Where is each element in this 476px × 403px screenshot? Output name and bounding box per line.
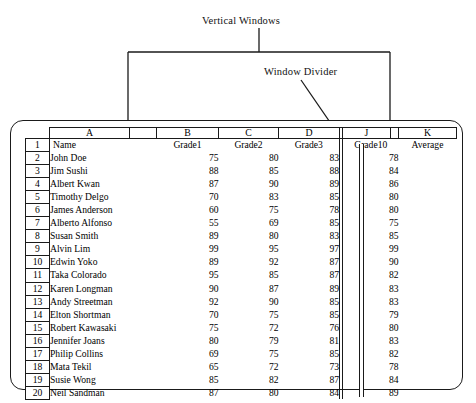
cell-average[interactable] — [399, 217, 457, 230]
row-number[interactable]: 12 — [26, 282, 50, 295]
cell-grade10[interactable]: 84 — [343, 165, 399, 178]
cell-grade1[interactable]: 85 — [157, 373, 219, 386]
cell-name[interactable]: Mata Tekil — [50, 360, 157, 373]
cell-grade10[interactable]: 82 — [343, 347, 399, 360]
row-number[interactable]: 7 — [26, 217, 50, 230]
cell-average[interactable] — [399, 256, 457, 269]
cell-grade10[interactable]: 82 — [343, 269, 399, 282]
cell-grade10[interactable]: 90 — [343, 256, 399, 269]
row-number[interactable]: 4 — [26, 178, 50, 191]
column-header-j[interactable]: J — [343, 128, 391, 139]
cell-average[interactable] — [399, 373, 457, 386]
row-number[interactable]: 5 — [26, 191, 50, 204]
column-header-c[interactable]: C — [219, 128, 279, 139]
table-row[interactable]: 13Andy Streetman92908583 — [26, 295, 457, 308]
cell-header-name[interactable]: Name — [50, 139, 157, 152]
row-number[interactable]: 16 — [26, 334, 50, 347]
cell-grade2[interactable]: 90 — [219, 295, 279, 308]
row-number[interactable]: 11 — [26, 269, 50, 282]
cell-grade1[interactable]: 60 — [157, 204, 219, 217]
row-number[interactable]: 19 — [26, 373, 50, 386]
cell-average[interactable] — [399, 269, 457, 282]
cell-grade3[interactable]: 87 — [279, 269, 340, 282]
cell-average[interactable] — [399, 282, 457, 295]
cell-grade1[interactable]: 99 — [157, 243, 219, 256]
cell-grade10[interactable]: 79 — [343, 308, 399, 321]
cell-grade3[interactable]: 89 — [279, 178, 340, 191]
cell-name[interactable]: Susan Smith — [50, 230, 157, 243]
cell-name[interactable]: Timothy Delgo — [50, 191, 157, 204]
cell-grade2[interactable]: 90 — [219, 178, 279, 191]
row-number[interactable]: 2 — [26, 152, 50, 165]
row-number[interactable]: 10 — [26, 256, 50, 269]
table-row[interactable]: 3Jim Sushi88858884 — [26, 165, 457, 178]
cell-average[interactable] — [399, 321, 457, 334]
row-number[interactable]: 14 — [26, 308, 50, 321]
table-row[interactable]: 12Karen Longman90878983 — [26, 282, 457, 295]
cell-grade3[interactable]: 85 — [279, 217, 340, 230]
cell-grade3[interactable]: 85 — [279, 347, 340, 360]
cell-grade3[interactable]: 87 — [279, 373, 340, 386]
table-row[interactable]: 8Susan Smith89808385 — [26, 230, 457, 243]
row-number[interactable]: 8 — [26, 230, 50, 243]
cell-name[interactable]: Philip Collins — [50, 347, 157, 360]
cell-header-grade2[interactable]: Grade2 — [219, 139, 279, 152]
cell-grade3[interactable]: 88 — [279, 165, 340, 178]
cell-grade3[interactable]: 83 — [279, 152, 340, 165]
cell-name[interactable]: Alberto Alfonso — [50, 217, 157, 230]
cell-name[interactable]: John Doe — [50, 152, 157, 165]
cell-name[interactable]: Jennifer Joans — [50, 334, 157, 347]
cell-header-grade1[interactable]: Grade1 — [157, 139, 219, 152]
cell-grade10[interactable]: 89 — [343, 386, 399, 399]
column-header-d[interactable]: D — [279, 128, 340, 139]
cell-grade10[interactable]: 86 — [343, 178, 399, 191]
cell-grade2[interactable]: 83 — [219, 191, 279, 204]
cell-grade2[interactable]: 75 — [219, 204, 279, 217]
cell-grade10[interactable]: 83 — [343, 334, 399, 347]
select-all-corner[interactable] — [26, 128, 50, 139]
table-row[interactable]: 10Edwin Yoko89928790 — [26, 256, 457, 269]
table-row[interactable]: 20Neil Sandman87808489 — [26, 386, 457, 399]
cell-grade3[interactable]: 73 — [279, 360, 340, 373]
cell-average[interactable] — [399, 295, 457, 308]
cell-grade2[interactable]: 75 — [219, 347, 279, 360]
cell-name[interactable]: Robert Kawasaki — [50, 321, 157, 334]
cell-grade1[interactable]: 69 — [157, 347, 219, 360]
cell-average[interactable] — [399, 386, 457, 399]
cell-grade1[interactable]: 95 — [157, 269, 219, 282]
cell-grade2[interactable]: 82 — [219, 373, 279, 386]
cell-grade2[interactable]: 72 — [219, 360, 279, 373]
row-number[interactable]: 18 — [26, 360, 50, 373]
cell-grade1[interactable]: 92 — [157, 295, 219, 308]
cell-grade2[interactable]: 75 — [219, 308, 279, 321]
cell-average[interactable] — [399, 243, 457, 256]
table-row[interactable]: 17Philip Collins69758582 — [26, 347, 457, 360]
cell-name[interactable]: Neil Sandman — [50, 386, 157, 399]
spreadsheet-grid[interactable]: A B C D J K 1 Name Grade1 Grade2 Grade3 … — [25, 127, 456, 400]
table-row[interactable]: 14Elton Shortman70758579 — [26, 308, 457, 321]
cell-grade1[interactable]: 89 — [157, 256, 219, 269]
cell-grade1[interactable]: 87 — [157, 178, 219, 191]
table-row[interactable]: 16Jennifer Joans80798183 — [26, 334, 457, 347]
cell-grade2[interactable]: 87 — [219, 282, 279, 295]
cell-grade1[interactable]: 70 — [157, 308, 219, 321]
table-row[interactable]: 7Alberto Alfonso55698575 — [26, 217, 457, 230]
cell-grade1[interactable]: 75 — [157, 321, 219, 334]
cell-name[interactable]: Jim Sushi — [50, 165, 157, 178]
row-number[interactable]: 15 — [26, 321, 50, 334]
cell-grade10[interactable]: 80 — [343, 191, 399, 204]
cell-name[interactable]: Elton Shortman — [50, 308, 157, 321]
cell-grade3[interactable]: 76 — [279, 321, 340, 334]
row-number[interactable]: 6 — [26, 204, 50, 217]
cell-grade10[interactable]: 78 — [343, 152, 399, 165]
table-row[interactable]: 18Mata Tekil65727378 — [26, 360, 457, 373]
cell-average[interactable] — [399, 360, 457, 373]
column-header-a-overflow[interactable] — [130, 128, 157, 139]
cell-name[interactable]: Edwin Yoko — [50, 256, 157, 269]
column-header-j-overflow[interactable] — [391, 128, 399, 139]
cell-grade3[interactable]: 83 — [279, 230, 340, 243]
cell-grade3[interactable]: 81 — [279, 334, 340, 347]
cell-average[interactable] — [399, 165, 457, 178]
row-number[interactable]: 1 — [26, 139, 50, 152]
cell-header-grade10[interactable]: Grade10 — [343, 139, 399, 152]
